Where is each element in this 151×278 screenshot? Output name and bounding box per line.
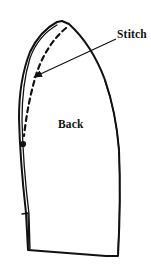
stitch-end-dot [20,141,26,147]
back-label: Back [58,118,84,130]
pattern-outline-path [19,21,120,256]
pattern-drawing [0,0,151,278]
pattern-figure: Stitch Back [0,0,151,278]
stitch-label: Stitch [117,28,147,40]
